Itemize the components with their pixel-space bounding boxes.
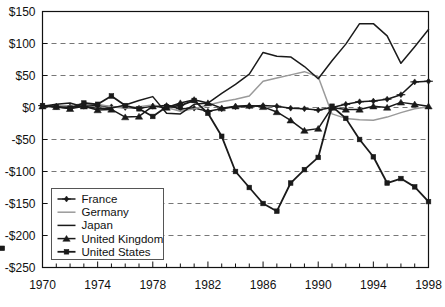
x-tick-label: 1982 — [195, 278, 222, 292]
legend-label: France — [82, 193, 118, 205]
y-tick-label: $150 — [9, 5, 36, 19]
data-point-marker — [385, 181, 390, 186]
data-point-marker — [275, 209, 280, 214]
x-tick-label: 1978 — [139, 278, 166, 292]
line-chart: $150$100$50$0-$50-$100-$150-$200-$250 19… — [0, 0, 445, 307]
y-tick-label: $100 — [9, 37, 36, 51]
x-axis-ticks — [43, 262, 429, 268]
data-point-marker — [206, 111, 211, 116]
data-point-marker — [399, 176, 404, 181]
data-point-marker — [123, 103, 128, 108]
y-tick-label: $0 — [22, 101, 36, 115]
data-point-marker — [233, 169, 238, 174]
y-tick-label: -$50 — [11, 133, 35, 147]
legend-label: Germany — [82, 206, 130, 218]
data-point-marker — [54, 105, 59, 110]
data-point-marker — [357, 137, 362, 142]
data-point-marker — [109, 94, 114, 99]
x-tick-label: 1994 — [360, 278, 387, 292]
data-point-marker — [150, 114, 155, 119]
data-point-marker — [178, 103, 183, 108]
data-point-marker — [288, 181, 293, 186]
x-axis-tick-labels: 19701974197819821986199019941998 — [29, 278, 442, 292]
data-point-marker — [0, 246, 5, 251]
data-point-marker — [343, 116, 348, 121]
data-point-marker — [68, 106, 73, 111]
data-point-marker — [302, 167, 307, 172]
data-point-marker — [164, 105, 169, 110]
data-point-marker — [95, 102, 100, 107]
y-tick-label: -$250 — [5, 261, 36, 275]
series-japan — [43, 24, 429, 114]
data-point-marker — [316, 155, 321, 160]
data-point-marker — [330, 104, 335, 109]
data-point-marker — [219, 134, 224, 139]
data-point-marker — [247, 185, 252, 190]
data-point-marker — [192, 98, 197, 103]
legend-label: United Kingdom — [82, 233, 164, 245]
chart-legend: FranceGermanyJapanUnited KingdomUnited S… — [52, 189, 164, 260]
chart-canvas: $150$100$50$0-$50-$100-$150-$200-$250 19… — [0, 0, 445, 307]
x-tick-label: 1998 — [415, 278, 442, 292]
y-tick-label: -$200 — [5, 229, 36, 243]
data-point-marker — [426, 199, 431, 204]
y-tick-label: $50 — [15, 69, 35, 83]
legend-label: United States — [82, 246, 151, 258]
data-point-marker — [82, 101, 87, 106]
series-line — [43, 24, 429, 114]
data-point-marker — [261, 201, 266, 206]
x-tick-label: 1974 — [84, 278, 111, 292]
data-point-marker — [40, 103, 45, 108]
data-point-marker — [371, 154, 376, 159]
legend-label: Japan — [82, 219, 113, 231]
y-axis-tick-labels: $150$100$50$0-$50-$100-$150-$200-$250 — [5, 5, 36, 275]
x-tick-label: 1990 — [305, 278, 332, 292]
data-point-marker — [412, 185, 417, 190]
y-tick-label: -$150 — [5, 197, 36, 211]
y-tick-label: -$100 — [5, 165, 36, 179]
data-point-marker — [137, 106, 142, 111]
x-tick-label: 1970 — [29, 278, 56, 292]
data-point-marker — [64, 250, 69, 255]
x-tick-label: 1986 — [250, 278, 277, 292]
